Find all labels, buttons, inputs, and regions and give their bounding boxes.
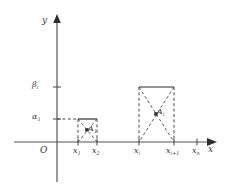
y-tick-label-beta-i: βi [32,81,38,89]
x-tick-label-xi-plus-1: xi+1 [166,147,179,155]
origin-label: O [40,146,47,155]
y-axis-arrow-icon [53,14,61,23]
x-tick-label-x2: x2 [92,147,100,155]
y-tick-label-alpha-1: α1 [32,113,41,121]
figure-canvas: y x O βi α1 x1 x2 xi xi+1 xn A1 Ai [0,0,227,195]
area-label-Ai: Ai [157,108,164,116]
area-label-A1: A1 [88,125,97,133]
x-axis-label: x [208,145,213,154]
x-tick-label-xn: xn [192,147,200,155]
diagram-svg [0,0,227,195]
x-tick-label-xi: xi [134,147,140,155]
y-axis [53,14,61,182]
x-tick-label-x1: x1 [73,147,81,155]
y-axis-label: y [42,16,47,25]
